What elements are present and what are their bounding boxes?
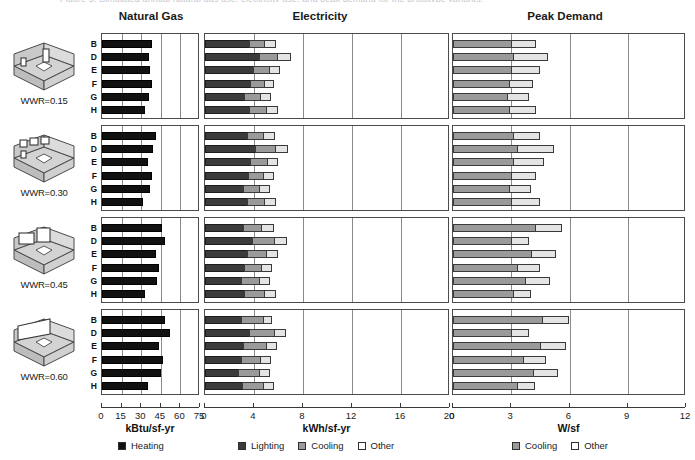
bar-segment-lighting [205, 80, 250, 88]
x-axis-tick [510, 403, 511, 407]
bar [102, 145, 153, 153]
bar [102, 250, 156, 258]
bar [205, 250, 278, 258]
bar-segment-heating [102, 66, 150, 74]
bar-segment-cooling [453, 329, 511, 337]
bar-segment-heating [102, 382, 148, 390]
bar-segment-other [517, 264, 540, 272]
prototype-thumbnail: WWR=0.60 [8, 312, 80, 382]
bar-segment-heating [102, 158, 148, 166]
gridline [628, 126, 629, 210]
bar-segment-other [517, 382, 534, 390]
bar-segment-other [263, 172, 274, 180]
plot-area [101, 125, 199, 211]
bar-segment-other [517, 145, 554, 153]
bar [453, 237, 529, 245]
bar-segment-other [264, 290, 276, 298]
plot-area [204, 125, 449, 211]
plot-area [452, 33, 685, 119]
x-axis-tick [569, 403, 570, 407]
gridline [570, 34, 571, 118]
bar-segment-other [259, 369, 270, 377]
bar [102, 198, 143, 206]
legend-item-lighting: Lighting [238, 440, 284, 451]
gridline [303, 126, 304, 210]
bar-segment-heating [102, 185, 150, 193]
bar-segment-cooling [453, 277, 525, 285]
bar [205, 132, 275, 140]
row-label-f: F [85, 80, 97, 89]
bar-segment-other [542, 316, 569, 324]
bar [102, 80, 152, 88]
bar-segment-other [511, 66, 540, 74]
gridline [352, 34, 353, 118]
bar-segment-cooling [453, 185, 509, 193]
bar-segment-other [511, 198, 540, 206]
legend-label: Lighting [251, 440, 284, 451]
bar-segment-lighting [205, 132, 247, 140]
gridline [161, 126, 162, 210]
bar-segment-cooling [453, 145, 517, 153]
x-axis-tick [351, 403, 352, 407]
bar-segment-heating [102, 316, 165, 324]
x-axis-tick-label: 12 [338, 410, 364, 421]
bar [205, 93, 271, 101]
bar [102, 158, 148, 166]
bar-segment-heating [102, 250, 156, 258]
bar [205, 172, 274, 180]
bar-segment-other [507, 93, 528, 101]
bar-segment-other [266, 250, 278, 258]
plot-area [204, 217, 449, 303]
bar-segment-cooling [453, 382, 517, 390]
bar [205, 198, 276, 206]
bar-segment-cooling [238, 369, 259, 377]
bar-segment-cooling [453, 264, 517, 272]
bar-segment-lighting [205, 172, 248, 180]
bar-segment-heating [102, 172, 152, 180]
bar [453, 145, 554, 153]
bar [205, 80, 274, 88]
bar-segment-cooling [247, 132, 263, 140]
bar-segment-lighting [205, 237, 252, 245]
bar-segment-cooling [453, 40, 511, 48]
bar-segment-other [260, 93, 271, 101]
plot-area [101, 217, 199, 303]
bar-segment-heating [102, 329, 170, 337]
bar-segment-cooling [453, 316, 542, 324]
x-axis-tick [160, 403, 161, 407]
legend-swatch-cooling [298, 442, 306, 450]
plot-area [101, 309, 199, 395]
bar-segment-other [513, 53, 548, 61]
bar-segment-heating [102, 264, 159, 272]
gridline [401, 126, 402, 210]
legend-swatch-other [358, 442, 366, 450]
bar-segment-cooling [453, 250, 531, 258]
bar [102, 356, 163, 364]
row-label-f: F [85, 356, 97, 365]
bar-segment-cooling [453, 172, 511, 180]
bar [205, 277, 270, 285]
bar-segment-lighting [205, 369, 238, 377]
bar-segment-heating [102, 277, 157, 285]
bar-segment-other [511, 40, 536, 48]
legend-label: Heating [131, 440, 164, 451]
bar-segment-cooling [249, 106, 266, 114]
x-axis-tick [121, 403, 122, 407]
bar [102, 342, 159, 350]
bar-segment-lighting [205, 66, 253, 74]
bar-segment-other [511, 329, 528, 337]
gridline [628, 218, 629, 302]
bar-segment-lighting [205, 290, 244, 298]
x-axis-tick [253, 403, 254, 407]
bar-segment-other [266, 342, 277, 350]
bar-segment-cooling [255, 145, 275, 153]
bar-segment-lighting [205, 342, 243, 350]
bar-segment-lighting [205, 382, 242, 390]
legend: Heating [118, 440, 164, 451]
bar-segment-heating [102, 53, 149, 61]
x-axis-tick-label: 3 [497, 410, 523, 421]
bar-segment-other [274, 237, 287, 245]
gridline [628, 310, 629, 394]
bar-segment-other [509, 185, 530, 193]
bar-segment-cooling [453, 80, 509, 88]
